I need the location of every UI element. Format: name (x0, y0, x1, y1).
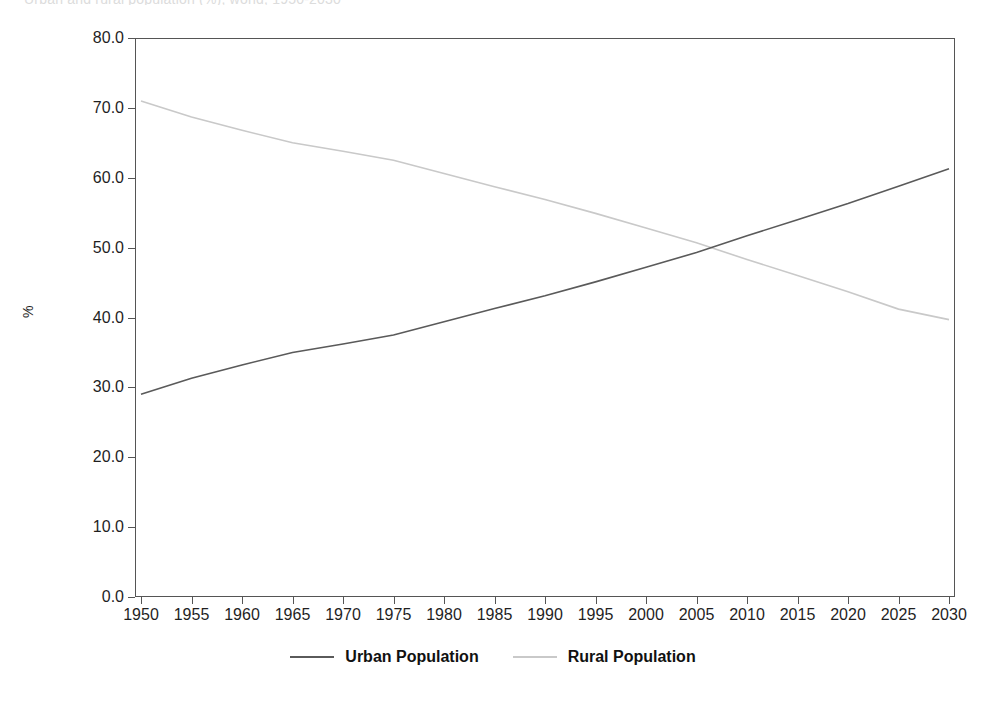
legend-line-icon-rural (513, 656, 557, 658)
urban-population-line (141, 169, 949, 395)
x-tick-mark (495, 597, 496, 604)
x-tick-mark (545, 597, 546, 604)
x-tick-label: 1960 (224, 606, 260, 624)
x-tick-mark (747, 597, 748, 604)
y-tick-mark (128, 248, 135, 249)
x-tick-label: 2030 (931, 606, 967, 624)
y-tick-mark (128, 457, 135, 458)
y-tick-label: 60.0 (6, 169, 124, 187)
x-tick-label: 2020 (830, 606, 866, 624)
legend-item-urban: Urban Population (290, 648, 478, 666)
x-tick-mark (646, 597, 647, 604)
legend-line-icon-urban (290, 656, 334, 658)
y-tick-mark (128, 318, 135, 319)
x-tick-label: 1975 (376, 606, 412, 624)
x-tick-mark (192, 597, 193, 604)
x-tick-label: 1995 (578, 606, 614, 624)
legend-item-rural: Rural Population (513, 648, 696, 666)
x-tick-mark (343, 597, 344, 604)
x-tick-label: 1950 (123, 606, 159, 624)
y-tick-label: 70.0 (6, 99, 124, 117)
x-tick-label: 2000 (628, 606, 664, 624)
line-chart: Urban and rural population (%), world, 1… (0, 0, 986, 703)
legend-label-urban: Urban Population (345, 648, 478, 666)
x-tick-mark (798, 597, 799, 604)
y-tick-label: 80.0 (6, 29, 124, 47)
x-tick-mark (141, 597, 142, 604)
x-tick-label: 1985 (477, 606, 513, 624)
y-tick-label: 40.0 (6, 309, 124, 327)
x-tick-mark (596, 597, 597, 604)
x-tick-mark (394, 597, 395, 604)
chart-legend: Urban Population Rural Population (0, 648, 986, 666)
x-tick-mark (242, 597, 243, 604)
y-tick-label: 0.0 (6, 588, 124, 606)
x-tick-label: 1965 (275, 606, 311, 624)
y-tick-label: 20.0 (6, 448, 124, 466)
x-tick-mark (293, 597, 294, 604)
x-tick-mark (949, 597, 950, 604)
y-tick-mark (128, 597, 135, 598)
x-tick-label: 1955 (174, 606, 210, 624)
y-tick-label: 50.0 (6, 239, 124, 257)
x-tick-label: 2010 (729, 606, 765, 624)
cut-off-chart-title: Urban and rural population (%), world, 1… (0, 0, 986, 5)
legend-label-rural: Rural Population (568, 648, 696, 666)
y-tick-mark (128, 108, 135, 109)
y-tick-mark (128, 387, 135, 388)
y-tick-label: 10.0 (6, 518, 124, 536)
x-tick-label: 2025 (881, 606, 917, 624)
x-tick-label: 1970 (325, 606, 361, 624)
y-axis: % 0.010.020.030.040.050.060.070.080.0 (0, 0, 124, 703)
x-tick-mark (899, 597, 900, 604)
x-tick-label: 1980 (426, 606, 462, 624)
x-tick-label: 2005 (679, 606, 715, 624)
y-tick-label: 30.0 (6, 378, 124, 396)
x-tick-mark (697, 597, 698, 604)
x-tick-label: 1990 (527, 606, 563, 624)
x-tick-mark (444, 597, 445, 604)
x-tick-mark (848, 597, 849, 604)
y-tick-mark (128, 38, 135, 39)
x-tick-label: 2015 (780, 606, 816, 624)
y-tick-mark (128, 527, 135, 528)
y-tick-mark (128, 178, 135, 179)
series-layer (135, 38, 955, 597)
